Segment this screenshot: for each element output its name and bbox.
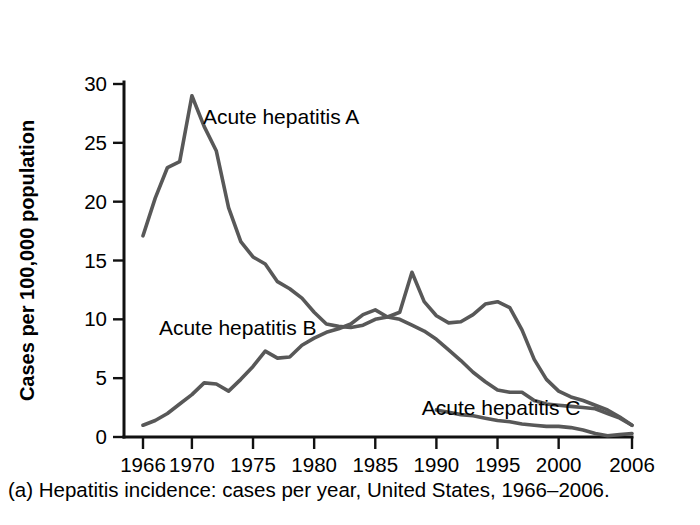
series-label-3: Acute hepatitis C (422, 396, 581, 419)
series-label-2: Acute hepatitis B (159, 316, 317, 339)
x-tick-label: 1966 (120, 453, 166, 476)
x-tick-label: 2000 (536, 453, 582, 476)
y-tick-label: 25 (84, 131, 107, 154)
series-label-1: Acute hepatitis A (203, 105, 359, 128)
line-chart: 0510152025301966197019751980198519901995… (0, 0, 700, 525)
y-tick-label: 10 (84, 307, 107, 330)
y-axis-title: Cases per 100,000 population (16, 120, 38, 401)
x-tick-label: 2006 (609, 453, 655, 476)
y-tick-label: 20 (84, 190, 107, 213)
y-tick-label: 5 (96, 366, 107, 389)
hepatitis-incidence-figure: 0510152025301966197019751980198519901995… (0, 0, 700, 525)
x-tick-label: 1980 (291, 453, 337, 476)
series-line-1 (143, 96, 632, 425)
y-tick-label: 15 (84, 249, 107, 272)
figure-caption: (a) Hepatitis incidence: cases per year,… (8, 478, 692, 502)
x-tick-label: 1995 (475, 453, 521, 476)
x-tick-label: 1970 (169, 453, 215, 476)
x-tick-label: 1975 (230, 453, 276, 476)
x-tick-label: 1985 (352, 453, 398, 476)
y-tick-label: 30 (84, 72, 107, 95)
x-tick-label: 1990 (414, 453, 460, 476)
y-tick-label: 0 (96, 425, 107, 448)
